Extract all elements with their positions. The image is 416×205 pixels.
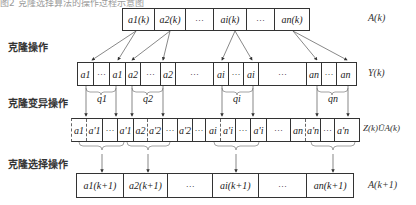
clone-cell: ai — [214, 63, 229, 85]
parent-cell: ai — [206, 119, 221, 141]
parent-cell: a1 — [72, 119, 87, 141]
clone-size-label: qn — [328, 93, 338, 104]
antibody-cell: ai(k+1) — [213, 174, 259, 197]
ellipsis-cell: ··· — [259, 174, 308, 197]
ellipsis-cell: ··· — [163, 119, 178, 141]
antibody-cell: an(k) — [275, 9, 309, 30]
ellipsis-cell: ··· — [193, 119, 206, 141]
antibody-cell: ai(k) — [214, 9, 247, 30]
mutated-cell: a'1 — [118, 119, 134, 141]
clone-cell: a2 — [161, 63, 176, 85]
mutated-cell: a'n — [335, 119, 351, 141]
antibody-cell: a2(k) — [155, 9, 186, 30]
stage-label-selection: 克隆选择操作 — [8, 156, 68, 171]
parent-cell: an — [291, 119, 306, 141]
antibody-cell: a1(k) — [123, 9, 155, 30]
ellipsis-cell: ··· — [259, 63, 307, 85]
clone-cell: a2 — [126, 63, 141, 85]
row-label-Z: Z(k)ŨA(k) — [363, 123, 400, 133]
ellipsis-cell: ··· — [267, 119, 291, 141]
clone-size-label: q1 — [97, 93, 107, 104]
ellipsis-cell: ··· — [236, 119, 251, 141]
population-row-Y: a1 ··· a1 a2 ··· a2 ··· ai ··· ai ··· an… — [77, 62, 357, 86]
row-label-Y: Y(k) — [368, 67, 385, 78]
row-label-A: A(k) — [368, 12, 385, 23]
ellipsis-cell: ··· — [141, 63, 161, 85]
antibody-cell: a2(k+1) — [124, 174, 169, 197]
mutated-cell: a'i — [251, 119, 267, 141]
ellipsis-cell: ··· — [321, 119, 335, 141]
ellipsis-cell: ··· — [94, 63, 110, 85]
ellipsis-cell: ··· — [168, 174, 213, 197]
clone-size-label: qi — [233, 93, 241, 104]
mutated-cell: a'2 — [148, 119, 163, 141]
clone-cell: an — [337, 63, 354, 85]
mutated-cell: a'1 — [87, 119, 103, 141]
ellipsis-cell: ··· — [322, 63, 337, 85]
clone-size-label: q2 — [143, 93, 153, 104]
population-row-A-next: a1(k+1) a2(k+1) ··· ai(k+1) ··· an(k+1) — [76, 173, 354, 198]
antibody-cell: a1(k+1) — [77, 174, 124, 197]
clone-cell: a1 — [110, 63, 126, 85]
clone-cell: a1 — [78, 63, 94, 85]
population-row-A: a1(k) a2(k) ··· ai(k) ··· an(k) — [122, 8, 310, 31]
ellipsis-cell: ··· — [247, 9, 275, 30]
mutated-cell: a'i — [221, 119, 236, 141]
parent-cell: a2 — [134, 119, 148, 141]
ellipsis-cell: ··· — [103, 119, 118, 141]
population-row-Z: a1 a'1 ··· a'1 a2 a'2 ··· a'2 ··· ai a'i… — [71, 118, 360, 142]
ellipsis-cell: ··· — [186, 9, 214, 30]
row-label-A-next: A(k+1) — [368, 179, 397, 190]
clone-cell: an — [307, 63, 322, 85]
mutated-cell: a'n — [306, 119, 321, 141]
mutated-cell: a'2 — [178, 119, 193, 141]
stage-label-mutation: 克隆变异操作 — [8, 95, 68, 110]
antibody-cell: an(k+1) — [307, 174, 353, 197]
ellipsis-cell: ··· — [229, 63, 244, 85]
clone-cell: ai — [244, 63, 259, 85]
ellipsis-cell: ··· — [176, 63, 214, 85]
stage-label-clone: 克隆操作 — [8, 39, 48, 54]
